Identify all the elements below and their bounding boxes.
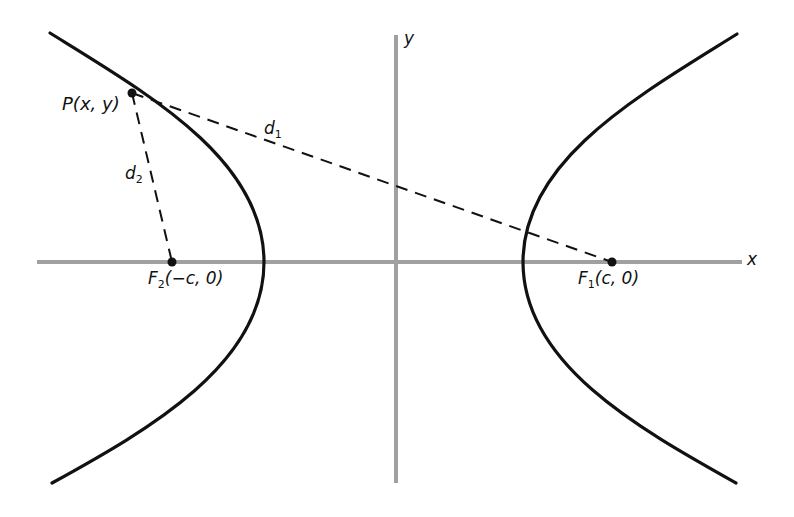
d1-subscript: 1 xyxy=(275,128,282,141)
focus-f1 xyxy=(608,258,617,267)
y-axis-label: y xyxy=(404,30,414,47)
f1-coords: (c, 0) xyxy=(595,268,639,288)
distance-d1-line xyxy=(132,93,612,262)
f1-letter: F xyxy=(578,268,588,288)
f1-subscript: 1 xyxy=(588,278,595,291)
d2-label: d2 xyxy=(125,165,143,185)
hyperbola-diagram xyxy=(0,0,794,517)
f2-subscript: 2 xyxy=(158,278,165,291)
d2-letter: d xyxy=(125,163,136,183)
f2-coords: (−c, 0) xyxy=(165,268,223,288)
d1-label: d1 xyxy=(264,120,282,140)
focus-f2-label: F2(−c, 0) xyxy=(148,270,223,290)
focus-f1-label: F1(c, 0) xyxy=(578,270,639,290)
focus-f2 xyxy=(168,258,177,267)
d2-subscript: 2 xyxy=(136,173,143,186)
point-p xyxy=(128,89,137,98)
d1-letter: d xyxy=(264,118,275,138)
point-p-label: P(x, y) xyxy=(62,95,120,113)
hyperbola-right-branch xyxy=(523,34,737,483)
f2-letter: F xyxy=(148,268,158,288)
x-axis-label: x xyxy=(747,251,757,268)
